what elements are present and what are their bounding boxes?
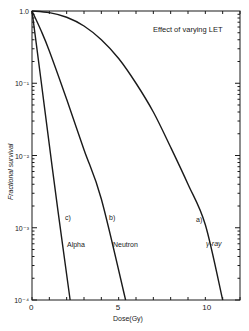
y-tick-label: 10⁻²	[15, 153, 30, 160]
curve-ray	[32, 11, 223, 300]
y-tick-label: 10⁻³	[15, 225, 30, 232]
alpha-tag: c)	[65, 214, 71, 222]
neutron-tag: b)	[109, 214, 115, 222]
curves	[32, 11, 223, 300]
y-tick-label: 10⁻⁴	[14, 297, 29, 304]
chart-svg: 05101.010⁻¹10⁻²10⁻³10⁻⁴ Effect of varyin…	[0, 0, 249, 331]
y-tick-label: 1.0	[19, 8, 29, 15]
x-tick-label: 5	[116, 303, 121, 312]
x-tick-label: 10	[202, 303, 211, 312]
gamma-tag: a)	[196, 216, 202, 224]
x-axis-label: Dose(Gy)	[113, 315, 143, 323]
y-tick-label: 10⁻¹	[15, 80, 30, 87]
plot-frame	[32, 11, 240, 300]
neutron-label: Neutron	[113, 241, 138, 248]
curve-neutron	[32, 11, 126, 300]
x-tick-label: 0	[29, 303, 34, 312]
chart-title: Effect of varying LET	[153, 25, 223, 34]
axes: 05101.010⁻¹10⁻²10⁻³10⁻⁴	[14, 8, 240, 312]
y-axis-label: Fractional survival	[7, 143, 14, 200]
alpha-label: Alpha	[67, 241, 85, 249]
survival-curve-chart: 05101.010⁻¹10⁻²10⁻³10⁻⁴ Effect of varyin…	[0, 0, 249, 331]
gamma-label: γ-ray	[206, 240, 222, 248]
